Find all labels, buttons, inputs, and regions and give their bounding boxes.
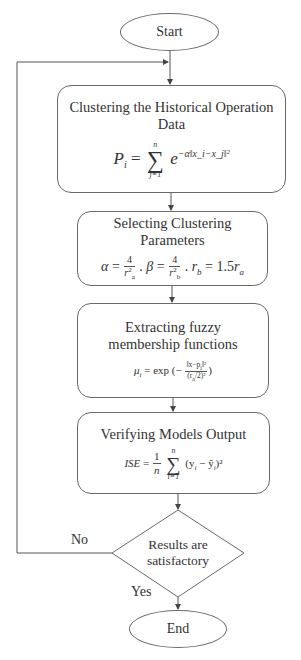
formula-ise: ISE = 1 n n ∑ i=1 (yi − ŷi)²	[124, 447, 222, 481]
branch-no-label: No	[71, 532, 88, 548]
start-terminal: Start	[120, 13, 219, 51]
step-clustering-title: Clustering the Historical Operation Data	[58, 99, 285, 133]
step-clustering-box: Clustering the Historical Operation Data…	[57, 85, 286, 193]
formula-parameters: α = 4 r2a . β = 4 r2b . rb = 1.5ra	[101, 255, 244, 282]
step-selecting-box: Selecting Clustering Parameters α = 4 r2…	[77, 211, 268, 286]
start-label: Start	[156, 24, 182, 40]
formula-potential: Pi = n ∑ j=1 e−α‖x_i−x_j‖²	[114, 141, 230, 179]
summation-symbol: n ∑ i=1	[166, 447, 180, 481]
summation-symbol: n ∑ j=1	[147, 141, 164, 179]
end-label: End	[167, 621, 190, 637]
step-selecting-title: Selecting Clustering Parameters	[78, 215, 267, 249]
step-verifying-title: Verifying Models Output	[95, 426, 253, 443]
step-extracting-box: Extracting fuzzy membership functions μi…	[77, 303, 269, 398]
end-terminal: End	[129, 610, 227, 648]
step-extracting-title: Extracting fuzzy membership functions	[78, 319, 268, 353]
decision-label: Results are satisfactory	[128, 537, 228, 569]
step-verifying-box: Verifying Models Output ISE = 1 n n ∑ i=…	[77, 412, 270, 494]
branch-yes-label: Yes	[131, 584, 151, 600]
formula-membership: μi = exp (− ‖x−pi‖² (ra/2)² )	[134, 361, 212, 382]
